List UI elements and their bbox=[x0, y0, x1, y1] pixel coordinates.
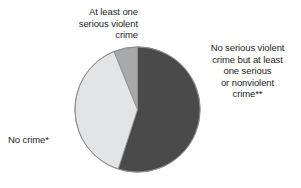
slice-label-serious-violent-crime: At least one serious violent crime bbox=[34, 6, 138, 41]
slice-label-no-crime: No crime* bbox=[8, 134, 78, 146]
pie-chart-figure: At least one serious violent crime No se… bbox=[0, 0, 301, 188]
pie-chart-svg bbox=[74, 46, 201, 173]
slice-label-nonviolent-crime: No serious violent crime but at least on… bbox=[196, 42, 299, 100]
pie-chart bbox=[74, 46, 201, 173]
pie-slice-group bbox=[75, 47, 200, 172]
